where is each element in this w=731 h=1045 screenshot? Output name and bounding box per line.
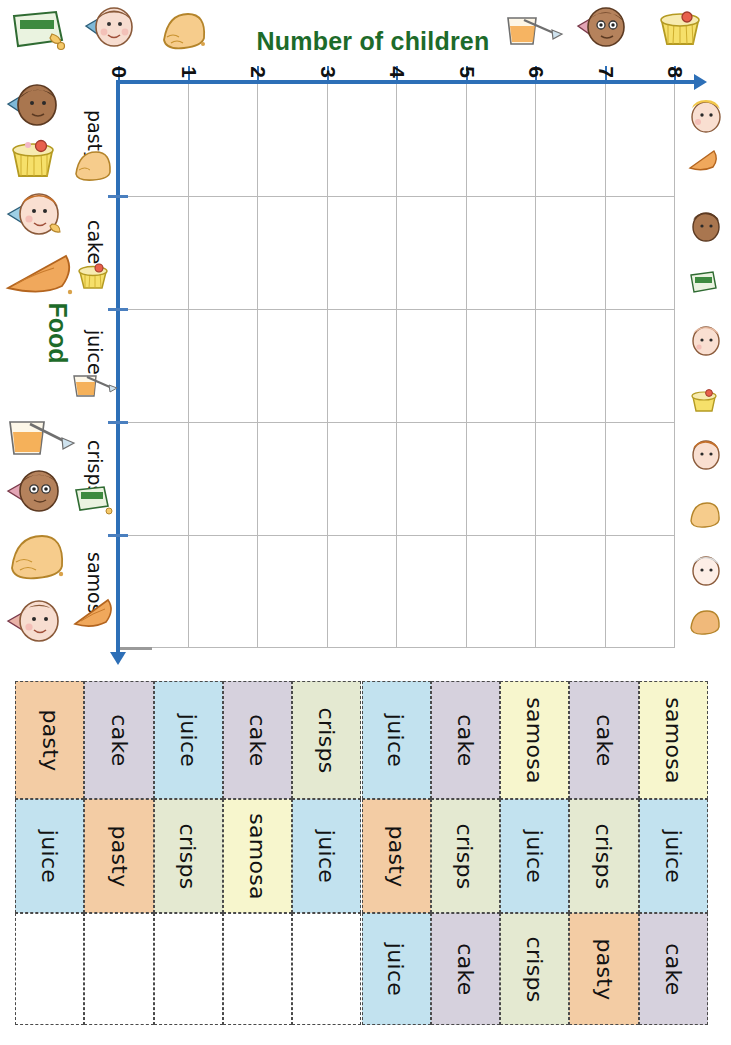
table-cell-crisps[interactable]: crisps: [292, 681, 361, 799]
child-face-icon: [576, 4, 628, 54]
child-face-icon: [6, 80, 60, 132]
juice-glass-icon: [502, 10, 564, 52]
table-cell-label: crisps: [453, 823, 478, 889]
chart-title: Number of children: [243, 26, 503, 56]
table-cell-empty[interactable]: [15, 913, 84, 1025]
table-cell-crisps[interactable]: crisps: [154, 799, 223, 913]
table-cell-label: juice: [314, 829, 339, 882]
y-axis-arrow-icon: [110, 652, 126, 665]
axis-stub: [120, 647, 152, 650]
worksheet-page: Number of children Food: [0, 0, 731, 1045]
pasty-icon: [158, 10, 210, 52]
table-column: juicepastyjuice: [362, 681, 431, 1025]
table-column: cakesamosa: [223, 681, 292, 1025]
table-cell-label: juice: [176, 713, 201, 766]
table-cell-empty[interactable]: [154, 913, 223, 1025]
table-cell-empty[interactable]: [84, 913, 153, 1025]
y-tickmark: [108, 308, 128, 311]
table-cell-label: pasty: [106, 825, 131, 887]
table-cell-label: samosa: [522, 697, 547, 784]
table-cell-cake[interactable]: cake: [84, 681, 153, 799]
table-cell-label: cake: [245, 714, 270, 766]
child-face-icon: [6, 466, 64, 520]
x-tick-label-1: 1: [174, 60, 204, 82]
table-cell-label: crisps: [592, 823, 617, 889]
table-column: crispsjuice: [292, 681, 361, 1025]
table-cell-crisps[interactable]: crisps: [500, 913, 569, 1025]
table-cell-cake[interactable]: cake: [431, 681, 500, 799]
y-tickmark: [108, 421, 128, 424]
table-cell-pasty[interactable]: pasty: [84, 799, 153, 913]
gridline-vertical: [327, 83, 328, 648]
table-cell-label: pasty: [384, 825, 409, 887]
table-cell-empty[interactable]: [292, 913, 361, 1025]
table-cell-label: juice: [384, 713, 409, 766]
gridline-horizontal: [119, 647, 674, 648]
table-column: cakecrispscake: [431, 681, 500, 1025]
table-cell-juice[interactable]: juice: [639, 799, 708, 913]
table-cell-label: cake: [453, 943, 478, 995]
child-face-icon: [6, 596, 64, 650]
table-cell-cake[interactable]: cake: [639, 913, 708, 1025]
child-face-icon: [686, 552, 726, 590]
samosa-icon: [4, 248, 78, 302]
table-cell-juice[interactable]: juice: [292, 799, 361, 913]
gridline-vertical: [674, 83, 675, 648]
table-column: cakepasty: [84, 681, 153, 1025]
cake-icon: [688, 386, 722, 416]
juice-glass-icon: [4, 412, 76, 466]
table-cell-label: juice: [37, 829, 62, 882]
table-column: cakecrispspasty: [569, 681, 638, 1025]
food-choices-table-region: pastyjuicecakepastyjuicecrispscakesamosa…: [0, 665, 731, 1045]
table-cell-juice[interactable]: juice: [15, 799, 84, 913]
food-choices-table: pastyjuicecakepastyjuicecrispscakesamosa…: [15, 681, 708, 1025]
table-column: samosajuicecrisps: [500, 681, 569, 1025]
table-cell-juice[interactable]: juice: [362, 913, 431, 1025]
table-cell-juice[interactable]: juice: [362, 681, 431, 799]
table-column: juicecrisps: [154, 681, 223, 1025]
x-tick-label-0: 0: [104, 60, 134, 82]
gridline-vertical: [535, 83, 536, 648]
samosa-icon: [688, 148, 722, 176]
table-cell-samosa[interactable]: samosa: [639, 681, 708, 799]
y-tickmark: [108, 534, 128, 537]
table-cell-cake[interactable]: cake: [431, 913, 500, 1025]
gridline-vertical: [466, 83, 467, 648]
table-cell-label: cake: [661, 943, 686, 995]
table-cell-juice[interactable]: juice: [154, 681, 223, 799]
gridline-horizontal: [119, 422, 674, 423]
category-axis-label-text: Food: [43, 302, 73, 363]
y-category-label-pasty: pasty: [78, 110, 112, 170]
table-cell-empty[interactable]: [223, 913, 292, 1025]
table-cell-samosa[interactable]: samosa: [500, 681, 569, 799]
y-category-label-samosa: samosa: [78, 552, 112, 612]
x-tick-label-3: 3: [313, 60, 343, 82]
crisps-packet-icon: [8, 6, 68, 52]
table-cell-juice[interactable]: juice: [500, 799, 569, 913]
table-column: samosajuicecake: [639, 681, 708, 1025]
table-cell-label: juice: [661, 829, 686, 882]
child-face-icon: [84, 4, 136, 54]
child-face-icon: [686, 436, 726, 474]
bar-chart-region: Number of children Food: [0, 0, 731, 665]
table-cell-cake[interactable]: cake: [569, 681, 638, 799]
child-face-icon: [6, 188, 64, 244]
table-cell-label: samosa: [661, 697, 686, 784]
y-category-label-crisps: crisps: [78, 440, 112, 500]
gridline-vertical: [605, 83, 606, 648]
y-category-label-cake: cake: [78, 220, 112, 280]
table-cell-label: pasty: [592, 938, 617, 1000]
table-cell-crisps[interactable]: crisps: [569, 799, 638, 913]
table-cell-samosa[interactable]: samosa: [223, 799, 292, 913]
table-cell-label: cake: [453, 714, 478, 766]
table-cell-label: crisps: [314, 707, 339, 773]
table-cell-pasty[interactable]: pasty: [15, 681, 84, 799]
cake-icon: [654, 6, 710, 50]
table-cell-crisps[interactable]: crisps: [431, 799, 500, 913]
table-cell-label: samosa: [245, 813, 270, 900]
table-cell-pasty[interactable]: pasty: [569, 913, 638, 1025]
table-cell-pasty[interactable]: pasty: [362, 799, 431, 913]
y-category-label-juice: juice: [78, 330, 112, 390]
pasty-icon: [688, 608, 722, 638]
table-cell-cake[interactable]: cake: [223, 681, 292, 799]
